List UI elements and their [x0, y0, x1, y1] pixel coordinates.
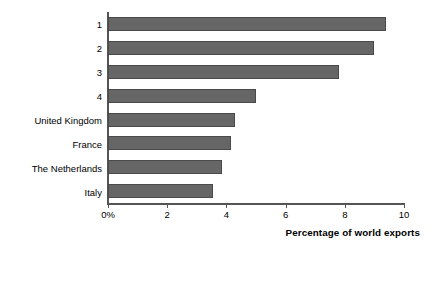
x-axis-tick-label: 0% — [88, 209, 128, 220]
x-axis-tick — [226, 203, 227, 208]
bar-row: 1 — [108, 12, 404, 36]
horizontal-bar-chart: 1234United KingdomFranceThe NetherlandsI… — [0, 0, 442, 283]
plot-area: 1234United KingdomFranceThe NetherlandsI… — [108, 12, 404, 203]
x-axis-line — [107, 203, 405, 205]
bar-row: The Netherlands — [108, 155, 404, 179]
bar — [108, 160, 222, 174]
bar — [108, 184, 213, 198]
bar-row: 2 — [108, 36, 404, 60]
bar — [108, 136, 231, 150]
x-axis-tick — [167, 203, 168, 208]
bar-row: United Kingdom — [108, 108, 404, 132]
category-label: 1 — [0, 19, 102, 30]
bar — [108, 113, 235, 127]
x-axis-tick-label: 2 — [147, 209, 187, 220]
bar-row: France — [108, 131, 404, 155]
x-axis-tick-label: 8 — [325, 209, 365, 220]
x-axis-tick — [108, 203, 109, 208]
category-label: 2 — [0, 43, 102, 54]
category-label: The Netherlands — [0, 163, 102, 174]
bar-row: 3 — [108, 60, 404, 84]
category-label: 4 — [0, 91, 102, 102]
category-label: United Kingdom — [0, 115, 102, 126]
x-axis-tick — [404, 203, 405, 208]
bar — [108, 89, 256, 103]
x-axis-tick-label: 6 — [266, 209, 306, 220]
category-label: 3 — [0, 67, 102, 78]
bar — [108, 65, 339, 79]
category-label: France — [0, 139, 102, 150]
category-label: Italy — [0, 187, 102, 198]
x-axis-tick — [345, 203, 346, 208]
bar-row: 4 — [108, 84, 404, 108]
x-axis-title: Percentage of world exports — [0, 227, 420, 238]
x-axis-tick-label: 4 — [206, 209, 246, 220]
x-axis-tick — [286, 203, 287, 208]
bar — [108, 41, 374, 55]
bar — [108, 17, 386, 31]
bar-row: Italy — [108, 179, 404, 203]
x-axis-tick-label: 10 — [384, 209, 424, 220]
